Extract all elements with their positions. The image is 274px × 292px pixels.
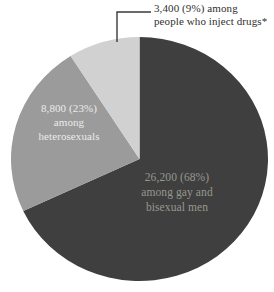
slice-label-line: among [19, 115, 119, 129]
slice-label-line: among gay and [117, 185, 237, 200]
slice-label-heterosexuals: 8,800 (23%) among heterosexuals [19, 101, 119, 143]
pie-slices [11, 37, 268, 281]
slice-label-line: 8,800 (23%) [19, 101, 119, 115]
slice-label-line: 3,400 (9%) among [154, 2, 272, 15]
pie-chart [0, 0, 274, 292]
slice-label-line: bisexual men [117, 200, 237, 215]
slice-label-gay-bisexual-men: 26,200 (68%) among gay and bisexual men [117, 170, 237, 215]
pie-chart-figure: 3,400 (9%) among people who inject drugs… [0, 0, 274, 292]
slice-label-line: 26,200 (68%) [117, 170, 237, 185]
slice-label-inject-drugs: 3,400 (9%) among people who inject drugs… [154, 2, 272, 28]
slice-label-line: heterosexuals [19, 129, 119, 143]
slice-label-line: people who inject drugs* [154, 15, 272, 28]
